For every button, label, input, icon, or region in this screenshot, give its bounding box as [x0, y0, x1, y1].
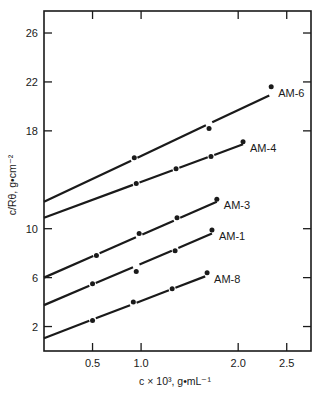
fit-line-segment — [142, 221, 173, 235]
data-point — [132, 155, 137, 160]
fit-line-segment — [137, 125, 205, 157]
data-point — [90, 318, 95, 323]
fit-line-segment — [44, 256, 93, 278]
fit-line-segment — [214, 144, 243, 155]
series-label: AM-1 — [219, 230, 245, 242]
data-point — [269, 84, 274, 89]
data-point — [134, 181, 139, 186]
data-point — [209, 227, 214, 232]
chart: 0.51.02.02.5 2610182226 AM-6AM-4AM-3AM-1… — [0, 0, 320, 397]
series-am-8: AM-8 — [44, 270, 240, 338]
series-label: AM-8 — [214, 273, 240, 285]
fit-line-segment — [44, 161, 131, 202]
y-tick-label: 22 — [26, 76, 38, 88]
data-point — [208, 154, 213, 159]
fit-line-segment — [44, 286, 89, 305]
data-point — [134, 269, 139, 274]
data-point — [214, 197, 219, 202]
data-point — [137, 231, 142, 236]
x-tick-label: 2.0 — [231, 357, 246, 369]
y-axis-title: c/Rθ, g•cm⁻² — [6, 154, 18, 215]
data-point — [173, 248, 178, 253]
plot-frame — [44, 11, 311, 351]
x-axis-title: c × 10³, g•mL⁻¹ — [139, 375, 211, 387]
y-tick-label: 26 — [26, 27, 38, 39]
x-tick-label: 0.5 — [85, 357, 100, 369]
y-tick-label: 18 — [26, 125, 38, 137]
fit-line-segment — [212, 95, 269, 122]
fit-line-segment — [175, 276, 205, 287]
series-label: AM-3 — [224, 199, 250, 211]
fit-line-segment — [96, 305, 130, 318]
y-tick-label: 2 — [32, 321, 38, 333]
data-point — [131, 300, 136, 305]
data-point — [94, 253, 99, 258]
data-point — [241, 139, 246, 144]
y-tick-label: 6 — [32, 272, 38, 284]
fit-line-segment — [139, 251, 171, 265]
fit-line-segment — [96, 267, 133, 283]
series-label: AM-4 — [250, 142, 276, 154]
fit-line-segment — [44, 321, 89, 338]
fit-line-segment — [100, 237, 136, 253]
data-point — [175, 215, 180, 220]
fit-line-segment — [179, 157, 207, 167]
series-layer: AM-6AM-4AM-3AM-1AM-8 — [44, 84, 304, 338]
series-label: AM-6 — [278, 87, 304, 99]
fit-line-segment — [137, 290, 169, 302]
y-tick-label: 10 — [26, 223, 38, 235]
y-axis-ticks: 2610182226 — [26, 27, 311, 333]
data-point — [90, 281, 95, 286]
data-point — [174, 166, 179, 171]
fit-line-segment — [44, 185, 133, 218]
x-tick-label: 2.5 — [279, 357, 294, 369]
data-point — [205, 270, 210, 275]
fit-line-segment — [178, 234, 212, 248]
fit-line-segment — [140, 170, 173, 182]
fit-line-segment — [180, 202, 217, 218]
data-point — [170, 286, 175, 291]
x-tick-label: 1.0 — [133, 357, 148, 369]
series-am-1: AM-1 — [44, 227, 245, 305]
data-point — [207, 126, 212, 131]
